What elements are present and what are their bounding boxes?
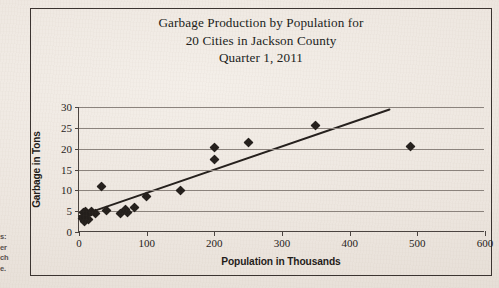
y-tick-label-20: 20: [61, 143, 72, 155]
y-tick-label-15: 15: [61, 164, 72, 176]
y-tick-25: [75, 128, 79, 129]
x-tick-300: [282, 231, 283, 236]
x-tick-200: [214, 231, 215, 236]
chart-title-line-3: Quarter 1, 2011: [30, 49, 492, 67]
chart-title-line-1: Garbage Production by Population for: [30, 14, 492, 32]
y-tick-15: [75, 170, 79, 171]
data-point: [101, 205, 111, 215]
data-point: [142, 192, 152, 202]
data-point: [406, 142, 416, 152]
margin-bleed-line-1: s:: [0, 232, 22, 243]
margin-bleed-text: s:erche.: [0, 232, 22, 274]
gridline-y-30: [79, 107, 484, 108]
x-tick-label-200: 200: [206, 237, 223, 249]
x-tick-label-0: 0: [76, 237, 82, 249]
x-tick-label-500: 500: [409, 237, 426, 249]
y-tick-label-30: 30: [61, 101, 72, 113]
gridline-y-25: [79, 128, 484, 129]
chart-title-line-2: 20 Cities in Jackson County: [30, 32, 492, 50]
y-tick-label-25: 25: [61, 122, 72, 134]
y-tick-10: [75, 190, 79, 191]
data-point: [209, 143, 219, 153]
data-point: [176, 185, 186, 195]
x-tick-600: [485, 231, 486, 236]
x-tick-500: [417, 231, 418, 236]
x-axis-title: Population in Thousands: [78, 256, 484, 267]
y-tick-label-5: 5: [67, 205, 73, 217]
y-tick-20: [75, 149, 79, 150]
y-tick-30: [75, 107, 79, 108]
chart-title: Garbage Production by Population for20 C…: [30, 14, 492, 67]
data-point: [209, 155, 219, 165]
data-point: [243, 138, 253, 148]
gridline-y-10: [79, 190, 484, 191]
margin-bleed-line-4: e.: [0, 264, 22, 275]
gridline-y-20: [79, 149, 484, 150]
x-tick-0: [79, 231, 80, 236]
x-tick-label-300: 300: [274, 237, 291, 249]
margin-bleed-line-3: ch: [0, 253, 22, 264]
margin-bleed-line-2: er: [0, 243, 22, 254]
y-axis-title: Garbage in Tons: [31, 107, 45, 232]
plot-area: 0510152025300100200300400500600: [78, 107, 484, 232]
y-tick-label-0: 0: [67, 226, 73, 238]
x-tick-400: [350, 231, 351, 236]
x-tick-label-400: 400: [341, 237, 358, 249]
gridline-y-15: [79, 170, 484, 171]
y-tick-label-10: 10: [61, 184, 72, 196]
x-tick-label-100: 100: [138, 237, 155, 249]
gridline-y-5: [79, 211, 484, 212]
x-tick-label-600: 600: [477, 237, 494, 249]
x-tick-100: [147, 231, 148, 236]
